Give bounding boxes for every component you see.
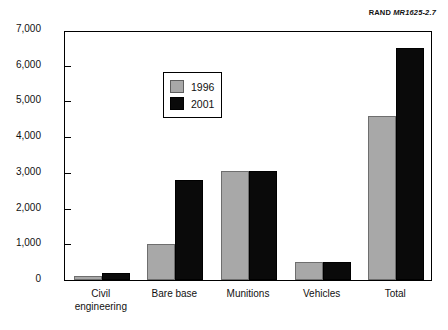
bar-group: [221, 32, 277, 280]
y-axis-tick-label: 2,000: [0, 202, 41, 213]
y-axis-tick-mark: [65, 244, 71, 245]
y-axis-tick-label: 6,000: [0, 59, 41, 70]
y-axis-tick-label: 1,000: [0, 237, 41, 248]
x-axis-labels: CivilengineeringBare baseMunitionsVehicl…: [64, 288, 432, 328]
x-axis-tick-label: Total: [352, 288, 438, 301]
y-axis-tick-label: 5,000: [0, 94, 41, 105]
y-axis-tick-label: 7,000: [0, 23, 41, 34]
chart-plot-area: 01,0002,0003,0004,0005,0006,0007,000 199…: [64, 31, 432, 281]
y-axis-tick-mark: [65, 101, 71, 102]
legend-item: 2001: [170, 95, 214, 112]
bar-2001: [175, 180, 203, 280]
bar-group: [295, 32, 351, 280]
bar-1996: [147, 244, 175, 280]
y-axis-tick-mark: [65, 173, 71, 174]
bar-1996: [368, 116, 396, 280]
bar-group: [74, 32, 130, 280]
source-credit: RAND MR1625-2.7: [369, 8, 436, 17]
y-axis-tick-mark: [65, 209, 71, 210]
y-axis-tick-mark: [65, 137, 71, 138]
source-credit-document-id: MR1625-2.7: [393, 8, 436, 17]
bar-group: [368, 32, 424, 280]
bar-2001: [323, 262, 351, 280]
y-axis-tick-label: 4,000: [0, 130, 41, 141]
y-axis-tick-label: 0: [0, 273, 41, 284]
bar-1996: [221, 171, 249, 280]
bar-group: [147, 32, 203, 280]
bar-2001: [249, 171, 277, 280]
bar-1996: [295, 262, 323, 280]
bar-2001: [396, 48, 424, 280]
chart-legend: 1996 2001: [163, 72, 222, 118]
bar-2001: [102, 273, 130, 280]
legend-label-2001: 2001: [191, 98, 214, 110]
y-axis-tick-mark: [65, 66, 71, 67]
legend-swatch-2001: [170, 97, 184, 110]
legend-label-1996: 1996: [191, 81, 214, 93]
legend-item: 1996: [170, 78, 214, 95]
source-credit-organization: RAND: [369, 8, 391, 17]
legend-swatch-1996: [170, 80, 184, 93]
bar-1996: [74, 276, 102, 280]
y-axis-tick-label: 3,000: [0, 166, 41, 177]
